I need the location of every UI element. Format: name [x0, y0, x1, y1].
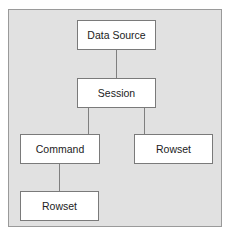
connector-datasource-session	[116, 49, 117, 78]
connector-session-command	[88, 107, 89, 134]
node-command: Command	[20, 134, 100, 164]
connector-command-rowset	[59, 163, 60, 191]
node-label: Data Source	[87, 29, 145, 41]
node-label: Rowset	[156, 143, 191, 155]
node-session: Session	[77, 78, 156, 108]
node-label: Rowset	[42, 200, 77, 212]
node-label: Command	[36, 143, 84, 155]
connector-session-rowset	[144, 107, 145, 134]
node-label: Session	[98, 87, 135, 99]
node-data-source: Data Source	[77, 20, 156, 50]
node-rowset-command: Rowset	[20, 191, 99, 221]
node-rowset-session: Rowset	[134, 134, 213, 164]
